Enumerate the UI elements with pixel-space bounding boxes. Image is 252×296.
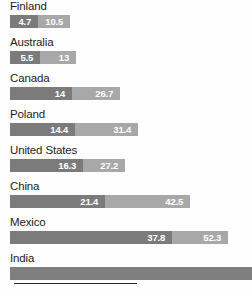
bar-segment-dark: 14.4 xyxy=(10,123,75,136)
bar-segment-value: 42.5 xyxy=(165,197,190,207)
bar-segment-light: 13 xyxy=(40,51,76,64)
stacked-bar: 14.431.4 xyxy=(10,123,138,136)
bar-row-label: India xyxy=(10,252,34,265)
stacked-bar: 37.852.3 xyxy=(10,231,228,244)
bar-row: Canada1426.7 xyxy=(0,72,252,108)
bar-segment-light: 10.5 xyxy=(38,15,70,28)
stacked-bar: 1426.7 xyxy=(10,87,120,100)
bar-row: United States16.327.2 xyxy=(0,144,252,180)
bar-segment-value: 26.7 xyxy=(95,89,120,99)
bar-segment-value: 27.2 xyxy=(100,161,125,171)
bar-segment-light: 42.5 xyxy=(105,195,190,208)
stacked-bar-chart: Finland4.710.5Australia5.513Canada1426.7… xyxy=(0,0,252,296)
bar-segment-value: 4.7 xyxy=(18,17,38,27)
bar-row-label: Poland xyxy=(10,108,45,121)
bar-segment-solid xyxy=(10,267,252,280)
bar-row: Mexico37.852.3 xyxy=(0,216,252,252)
bar-row-label: United States xyxy=(10,144,77,157)
bar-segment-value: 5.5 xyxy=(20,53,40,63)
bar-segment-dark: 5.5 xyxy=(10,51,40,64)
bar-segment-value: 13 xyxy=(59,53,76,63)
bar-segment-light: 26.7 xyxy=(72,87,120,100)
bar-segment-value: 16.3 xyxy=(58,161,83,171)
bar-segment-value: 21.4 xyxy=(80,197,105,207)
bar-segment-light: 31.4 xyxy=(75,123,138,136)
bar-segment-value: 10.5 xyxy=(45,17,70,27)
stacked-bar: 21.442.5 xyxy=(10,195,190,208)
stacked-bar: 4.710.5 xyxy=(10,15,70,28)
bar-row-label: Finland xyxy=(10,0,47,13)
bar-segment-dark: 14 xyxy=(10,87,72,100)
bar-segment-value: 31.4 xyxy=(113,125,138,135)
bar-segment-light: 27.2 xyxy=(83,159,125,172)
axis-baseline-rule xyxy=(14,283,137,284)
stacked-bar xyxy=(10,267,252,280)
bar-row: Australia5.513 xyxy=(0,36,252,72)
chart-rows: Finland4.710.5Australia5.513Canada1426.7… xyxy=(0,0,252,288)
bar-segment-value: 52.3 xyxy=(203,233,228,243)
bar-segment-dark: 21.4 xyxy=(10,195,105,208)
stacked-bar: 5.513 xyxy=(10,51,76,64)
stacked-bar: 16.327.2 xyxy=(10,159,125,172)
bar-row: Finland4.710.5 xyxy=(0,0,252,36)
bar-row-label: Australia xyxy=(10,36,53,49)
bar-row: Poland14.431.4 xyxy=(0,108,252,144)
bar-segment-value: 14 xyxy=(55,89,72,99)
bar-segment-value: 14.4 xyxy=(50,125,75,135)
bar-row-label: China xyxy=(10,180,39,193)
bar-segment-dark: 16.3 xyxy=(10,159,83,172)
bar-segment-light: 52.3 xyxy=(172,231,228,244)
bar-row-label: Mexico xyxy=(10,216,46,229)
bar-segment-value: 37.8 xyxy=(147,233,172,243)
bar-segment-dark: 4.7 xyxy=(10,15,38,28)
bar-row: China21.442.5 xyxy=(0,180,252,216)
bar-row-label: Canada xyxy=(10,72,49,85)
bar-segment-dark: 37.8 xyxy=(10,231,172,244)
